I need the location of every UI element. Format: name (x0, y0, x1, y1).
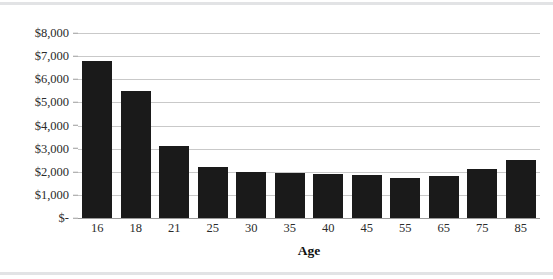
x-axis-tick-label: 65 (425, 222, 464, 235)
bar-slot (117, 33, 156, 218)
bar[interactable] (121, 91, 151, 218)
y-axis-tick: $1,000 (35, 189, 78, 202)
bar[interactable] (82, 61, 112, 218)
x-axis-baseline (78, 218, 540, 219)
figure-top-border (0, 2, 553, 5)
y-axis-tick: $8,000 (35, 27, 78, 40)
bar[interactable] (275, 173, 305, 218)
bar[interactable] (198, 167, 228, 218)
y-axis-tick: $5,000 (35, 96, 78, 109)
x-axis-tick-label: 40 (309, 222, 348, 235)
bar[interactable] (506, 160, 536, 218)
bar-slot (502, 33, 541, 218)
bar-slot (271, 33, 310, 218)
x-axis-tick-label: 18 (117, 222, 156, 235)
x-axis-tick-label: 55 (386, 222, 425, 235)
bar-slot (463, 33, 502, 218)
y-axis-tick-label: $6,000 (35, 73, 69, 86)
y-axis-tick-label: $2,000 (35, 166, 69, 179)
bar-slot (232, 33, 271, 218)
y-axis-tick-label: $1,000 (35, 189, 69, 202)
y-axis-tick: $2,000 (35, 166, 78, 179)
y-axis-tick-label: $3,000 (35, 142, 69, 155)
bars-layer (78, 33, 540, 218)
bar[interactable] (159, 146, 189, 218)
x-axis-tick-label: 45 (348, 222, 387, 235)
y-axis-tick-label: $4,000 (35, 119, 69, 132)
x-axis-tick-label: 16 (78, 222, 117, 235)
bar[interactable] (390, 178, 420, 218)
y-axis-tick: $7,000 (35, 50, 78, 63)
bar[interactable] (236, 172, 266, 218)
y-axis-tick: $4,000 (35, 119, 78, 132)
bar-slot (348, 33, 387, 218)
x-axis-tick-label: 30 (232, 222, 271, 235)
y-axis-tick-label: $5,000 (35, 96, 69, 109)
y-axis-tick: $- (59, 212, 78, 225)
bar-slot (425, 33, 464, 218)
bar-slot (155, 33, 194, 218)
bar[interactable] (467, 169, 497, 218)
x-axis-tick-label: 75 (463, 222, 502, 235)
bar-slot (78, 33, 117, 218)
x-axis-tick-label: 35 (271, 222, 310, 235)
x-axis-tick-label: 85 (502, 222, 541, 235)
bar[interactable] (352, 175, 382, 218)
bar[interactable] (429, 176, 459, 218)
x-axis-tick-label: 21 (155, 222, 194, 235)
bar-chart-figure: $8,000$7,000$6,000$5,000$4,000$3,000$2,0… (0, 0, 553, 279)
bar-slot (194, 33, 233, 218)
y-axis-tick: $3,000 (35, 142, 78, 155)
bar-slot (309, 33, 348, 218)
x-axis-tick-label: 25 (194, 222, 233, 235)
figure-bottom-border (0, 272, 553, 275)
y-axis-tick-label: $7,000 (35, 50, 69, 63)
bar-slot (386, 33, 425, 218)
bar[interactable] (313, 174, 343, 218)
plot-area (78, 33, 540, 218)
y-axis-tick-label: $- (59, 212, 69, 225)
y-axis-tick: $6,000 (35, 73, 78, 86)
y-axis-tick-label: $8,000 (35, 27, 69, 40)
x-axis-tick-labels: 161821253035404555657585 (78, 222, 540, 235)
y-axis: $8,000$7,000$6,000$5,000$4,000$3,000$2,0… (0, 33, 78, 218)
x-axis-title: Age (78, 244, 540, 258)
